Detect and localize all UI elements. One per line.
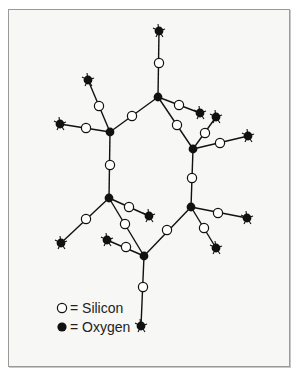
silicon-atom (120, 219, 129, 228)
bonds (60, 31, 248, 326)
oxygen-atom (57, 239, 66, 248)
silicate-ring-diagram: = Silicon = Oxygen (0, 0, 298, 375)
silicon-atom (124, 202, 133, 211)
legend: = Silicon = Oxygen (57, 300, 130, 335)
oxygen-legend-icon (57, 322, 66, 331)
oxygen-atom (106, 128, 115, 137)
silicon-legend-icon (57, 303, 66, 312)
oxygen-atom (145, 212, 154, 221)
oxygen-atom (105, 194, 114, 203)
silicon-atom (94, 101, 103, 110)
oxygen-atom (187, 203, 196, 212)
silicon-atom (199, 223, 208, 232)
oxygen-atom (189, 145, 198, 154)
silicon-atom (187, 173, 196, 182)
silicon-atom (138, 282, 147, 291)
oxygen-atom (212, 244, 221, 253)
silicon-atom (172, 120, 181, 129)
oxygen-legend-label: = Oxygen (70, 319, 130, 335)
oxygen-atom (103, 236, 112, 245)
silicon-legend-label: = Silicon (70, 300, 123, 316)
oxygen-atom (212, 113, 221, 122)
silicon-atom (81, 123, 90, 132)
silicon-atom (200, 128, 209, 137)
silicon-atoms (81, 58, 224, 291)
silicon-atom (81, 214, 90, 223)
oxygen-atom (243, 214, 252, 223)
oxygen-atom (137, 322, 146, 331)
oxygen-atom (140, 252, 149, 261)
silicon-atom (105, 160, 114, 169)
oxygen-atom (84, 76, 93, 85)
silicon-atom (174, 100, 183, 109)
silicon-atom (215, 138, 224, 147)
oxygen-atom (154, 93, 163, 102)
oxygen-atom (196, 109, 205, 118)
silicon-atom (121, 242, 130, 251)
silicon-atom (127, 111, 136, 120)
silicon-atom (162, 225, 171, 234)
oxygen-atom (244, 132, 253, 141)
terminal-bond-ticks (54, 24, 254, 332)
oxygen-atom (155, 27, 164, 36)
silicon-atom (213, 208, 222, 217)
oxygen-atom (56, 120, 65, 129)
oxygen-atoms (56, 27, 253, 331)
silicon-atom (154, 58, 163, 67)
